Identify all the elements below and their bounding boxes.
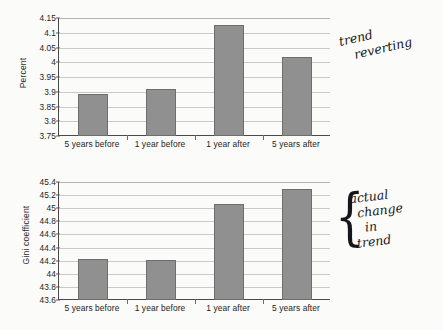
chart1-y-tick: 45 <box>47 203 56 213</box>
chart1-x-tick-label: 5 years before <box>58 303 126 313</box>
chart1-y-tick: 44.4 <box>39 243 56 253</box>
handwritten-note-trend-reverting: trend reverting <box>337 18 413 65</box>
percent-bar-chart: Percent 3.753.83.853.93.9544.054.14.15 5… <box>0 6 332 152</box>
chart1-plot-area <box>58 182 330 300</box>
chart0-gridline <box>59 18 330 19</box>
chart0-bar <box>282 57 312 136</box>
chart1-x-tick-label: 1 year before <box>126 303 194 313</box>
chart0-y-tick: 4.1 <box>44 28 56 38</box>
chart0-plot-area <box>58 18 330 136</box>
chart0-bar <box>214 25 244 136</box>
gini-coefficient-bar-chart: Gini coefficient 43.643.84444.244.444.64… <box>0 170 332 320</box>
chart1-bar <box>146 260 176 300</box>
chart1-x-tick-label: 5 years after <box>262 303 330 313</box>
chart1-y-tick-labels: 43.643.84444.244.444.644.84545.245.4 <box>26 170 56 288</box>
chart1-gridline <box>59 182 330 183</box>
chart0-y-tick: 3.95 <box>39 72 56 82</box>
chart1-y-tick: 43.8 <box>39 282 56 292</box>
chart1-x-tick-label: 1 year after <box>194 303 262 313</box>
chart1-y-tick: 45.2 <box>39 190 56 200</box>
chart0-y-tick: 4.15 <box>39 13 56 23</box>
chart1-bar <box>78 259 108 300</box>
chart0-bar <box>78 94 108 136</box>
chart1-y-tick: 44.6 <box>39 229 56 239</box>
chart0-y-tick: 3.8 <box>44 116 56 126</box>
chart1-y-tick: 43.6 <box>39 295 56 305</box>
chart1-y-tick: 44.8 <box>39 216 56 226</box>
chart1-y-tick: 44.2 <box>39 256 56 266</box>
chart0-x-tick-label: 1 year before <box>126 139 194 149</box>
chart0-y-tick: 3.75 <box>39 131 56 141</box>
chart0-y-tick: 3.85 <box>39 102 56 112</box>
chart0-x-tick-label: 5 years before <box>58 139 126 149</box>
chart1-y-tick: 44 <box>47 269 56 279</box>
chart0-y-tick: 3.9 <box>44 87 56 97</box>
chart1-bar <box>282 189 312 300</box>
chart0-y-tick: 4.05 <box>39 43 56 53</box>
chart0-bar <box>146 89 176 136</box>
scanned-figure-page: Percent 3.753.83.853.93.9544.054.14.15 5… <box>0 0 443 330</box>
chart0-x-tick-label: 5 years after <box>262 139 330 149</box>
chart0-gridline <box>59 33 330 34</box>
handwritten-note-actual-change-line4: trend <box>356 230 407 251</box>
chart0-y-tick-labels: 3.753.83.853.93.9544.054.14.15 <box>26 6 56 124</box>
chart1-bar <box>214 204 244 300</box>
handwritten-note-actual-change-in-trend: actual change in trend <box>349 185 408 251</box>
chart1-y-tick: 45.4 <box>39 177 56 187</box>
chart0-x-tick-label: 1 year after <box>194 139 262 149</box>
chart0-gridline <box>59 48 330 49</box>
